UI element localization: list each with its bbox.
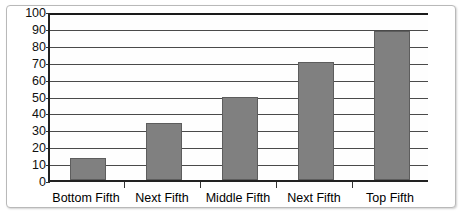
y-axis-tick-label: 40 bbox=[12, 108, 46, 121]
bar bbox=[222, 97, 258, 180]
y-axis-tick-label: 100 bbox=[12, 7, 46, 20]
y-axis-tick-label: 80 bbox=[12, 41, 46, 54]
y-axis-tick-label: 0 bbox=[12, 176, 46, 189]
y-axis: 1009080706050403020100 bbox=[7, 13, 46, 182]
x-axis-tick-label: Top Fifth bbox=[352, 190, 428, 206]
x-axis: Bottom FifthNext FifthMiddle FifthNext F… bbox=[48, 190, 428, 212]
gridline bbox=[50, 81, 428, 82]
y-axis-tick-label: 10 bbox=[12, 159, 46, 172]
x-axis-tick-label: Middle Fifth bbox=[200, 190, 276, 206]
chart-frame: 1009080706050403020100 Bottom FifthNext … bbox=[6, 5, 456, 208]
y-axis-tick-label: 70 bbox=[12, 57, 46, 70]
gridline bbox=[50, 64, 428, 65]
x-axis-tick-mark bbox=[200, 182, 201, 188]
x-axis-tick-label: Next Fifth bbox=[124, 190, 200, 206]
y-axis-tick-mark bbox=[46, 182, 50, 183]
x-axis-tick-mark bbox=[352, 182, 353, 188]
gridline bbox=[50, 30, 428, 31]
bar bbox=[374, 31, 410, 180]
x-axis-tick-label: Next Fifth bbox=[276, 190, 352, 206]
x-axis-tick-mark bbox=[276, 182, 277, 188]
x-axis-tick-mark bbox=[124, 182, 125, 188]
y-axis-tick-label: 50 bbox=[12, 91, 46, 104]
x-axis-tick-label: Bottom Fifth bbox=[48, 190, 124, 206]
y-axis-tick-label: 30 bbox=[12, 125, 46, 138]
gridline bbox=[50, 47, 428, 48]
bar bbox=[146, 123, 182, 180]
bar bbox=[70, 158, 106, 180]
plot-area bbox=[48, 13, 428, 182]
y-axis-tick-label: 60 bbox=[12, 74, 46, 87]
y-axis-tick-label: 90 bbox=[12, 24, 46, 37]
y-axis-tick-label: 20 bbox=[12, 142, 46, 155]
gridline bbox=[50, 13, 428, 15]
bar bbox=[298, 62, 334, 180]
